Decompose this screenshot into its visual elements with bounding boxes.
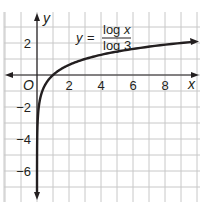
equation-denominator: log 3 — [103, 38, 131, 53]
x-tick-label: 6 — [129, 78, 136, 93]
axes — [5, 13, 199, 196]
x-tick-label: 2 — [65, 78, 72, 93]
x-axis-label: x — [187, 76, 196, 92]
curve-arrow-right-icon — [190, 38, 199, 45]
grid-lines — [4, 12, 200, 202]
y-tick-label: 2 — [24, 36, 31, 51]
y-tick-label: −2 — [16, 100, 31, 115]
curve-arrow-down-icon — [34, 192, 40, 200]
y-tick-label: −4 — [16, 132, 31, 147]
y-axis-arrow-up-icon — [34, 13, 40, 21]
log-graph: 24682−2−4−6 x y O y = log x log 3 — [0, 0, 200, 205]
x-tick-label: 4 — [97, 78, 104, 93]
equation-numerator: log x — [103, 22, 131, 37]
y-tick-label: −6 — [16, 164, 31, 179]
equation-equals: = — [87, 30, 95, 45]
x-tick-label: 8 — [161, 78, 168, 93]
y-axis-label: y — [42, 10, 51, 26]
x-axis-arrow-left-icon — [5, 72, 13, 78]
origin-label: O — [23, 77, 34, 93]
